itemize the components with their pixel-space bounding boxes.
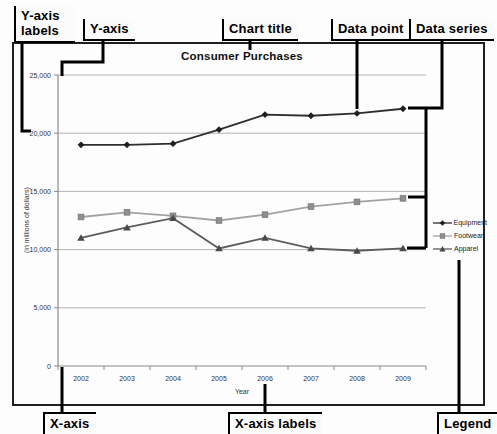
callout-y-axis: Y-axis [83,19,135,41]
callout-x-axis-labels: X-axis labels [228,412,322,434]
data-series-callout-line [408,40,442,108]
callout-x-axis: X-axis [43,412,96,434]
y-axis-callout-line [62,40,103,76]
y-axis-labels-callout-line [22,40,31,131]
callout-chart-title: Chart title [222,19,298,41]
callout-data-point: Data point [331,19,410,41]
callout-legend: Legend [437,412,497,434]
callout-y-axis-labels: Y-axis labels [14,6,75,43]
callout-data-series: Data series [409,19,494,41]
